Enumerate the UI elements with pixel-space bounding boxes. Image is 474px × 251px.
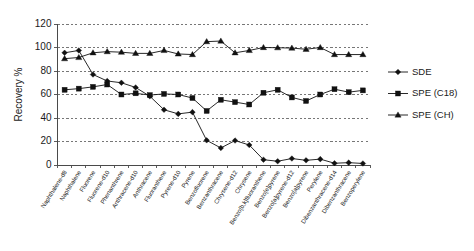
legend-label: SPE (C18) — [412, 87, 457, 98]
data-point-marker — [360, 88, 365, 93]
series-spe-ch — [62, 38, 367, 61]
data-point-marker — [396, 91, 401, 96]
data-point-marker — [147, 93, 152, 98]
data-point-marker — [218, 38, 224, 43]
chart-canvas: 020406080100120Recovery %Naphthalene-d8N… — [0, 0, 474, 251]
series-line — [65, 50, 363, 163]
data-point-marker — [190, 109, 196, 115]
data-point-marker — [304, 98, 309, 103]
series-line — [65, 85, 363, 111]
data-point-marker — [346, 51, 352, 56]
y-tick-label: 60 — [40, 88, 52, 99]
data-point-marker — [105, 82, 110, 87]
data-point-marker — [76, 86, 81, 91]
data-point-marker — [395, 112, 401, 117]
data-point-marker — [161, 47, 167, 52]
data-point-marker — [247, 102, 252, 107]
y-tick-label: 100 — [35, 41, 52, 52]
data-point-marker — [218, 145, 224, 151]
data-point-marker — [119, 92, 124, 97]
data-point-marker — [218, 97, 223, 102]
recovery-chart: 020406080100120Recovery %Naphthalene-d8N… — [0, 0, 474, 251]
data-point-marker — [395, 69, 401, 75]
legend-item[interactable]: SDE — [388, 66, 432, 77]
data-point-marker — [176, 92, 181, 97]
data-point-marker — [317, 156, 323, 162]
legend-item[interactable]: SPE (CH) — [388, 109, 454, 120]
y-tick-label: 0 — [46, 159, 52, 170]
series-line — [65, 41, 363, 59]
data-point-marker — [204, 138, 210, 144]
data-point-marker — [260, 44, 266, 49]
data-point-marker — [346, 90, 351, 95]
data-point-marker — [76, 48, 82, 54]
y-tick-label: 120 — [35, 18, 52, 29]
data-point-marker — [175, 111, 181, 117]
data-point-marker — [303, 158, 309, 164]
data-point-marker — [162, 91, 167, 96]
y-tick-label: 40 — [40, 112, 52, 123]
data-point-marker — [360, 51, 366, 56]
data-point-marker — [91, 84, 96, 89]
data-point-marker — [62, 50, 68, 56]
y-axis-ticks: 020406080100120 — [35, 18, 58, 170]
legend-item[interactable]: SPE (C18) — [388, 87, 457, 98]
data-point-marker — [133, 91, 138, 96]
data-point-marker — [275, 87, 280, 92]
data-point-marker — [232, 138, 238, 144]
series-sde — [62, 48, 366, 167]
data-point-marker — [331, 51, 337, 56]
y-axis-title: Recovery % — [13, 67, 24, 121]
data-point-marker — [190, 96, 195, 101]
data-point-marker — [275, 45, 281, 50]
legend-label: SPE (CH) — [412, 109, 454, 120]
data-point-marker — [261, 90, 266, 95]
data-point-marker — [332, 87, 337, 92]
data-point-marker — [317, 44, 323, 49]
legend-label: SDE — [412, 66, 432, 77]
data-point-marker — [318, 92, 323, 97]
data-point-marker — [204, 108, 209, 113]
data-point-marker — [289, 95, 294, 100]
data-point-marker — [289, 156, 295, 162]
x-axis-ticks: Naphthalene-d8NaphthaleneFluoreneFluoren… — [39, 165, 370, 226]
data-point-marker — [90, 72, 96, 78]
data-point-marker — [104, 49, 110, 54]
series-spe-c18 — [62, 82, 365, 113]
data-point-marker — [233, 100, 238, 105]
legend: SDESPE (C18)SPE (CH) — [388, 66, 457, 120]
data-point-marker — [119, 80, 125, 86]
y-tick-label: 20 — [40, 135, 52, 146]
data-point-marker — [133, 85, 139, 91]
y-tick-label: 80 — [40, 65, 52, 76]
data-point-marker — [62, 87, 67, 92]
data-point-marker — [275, 158, 281, 164]
